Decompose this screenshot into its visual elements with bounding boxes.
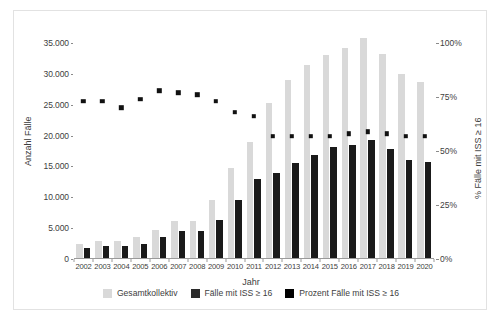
bar-group: [320, 43, 339, 259]
bar-gesamtkollektiv[interactable]: [76, 244, 83, 259]
y-axis-right-tick-label: 0%: [440, 254, 452, 264]
x-axis-tick-label: 2014: [303, 262, 319, 271]
scatter-point-prozent[interactable]: [403, 134, 407, 138]
y-axis-right-tick-label: 50%: [440, 146, 457, 156]
scatter-point-prozent[interactable]: [138, 97, 142, 101]
x-axis-tick-mark: [168, 259, 169, 262]
scatter-point-prozent[interactable]: [100, 99, 104, 103]
bar-faelle-iss[interactable]: [349, 145, 356, 259]
bar-faelle-iss[interactable]: [141, 244, 148, 259]
bar-faelle-iss[interactable]: [406, 160, 413, 259]
bar-faelle-iss[interactable]: [387, 149, 394, 259]
bar-faelle-iss[interactable]: [368, 140, 375, 259]
bar-group: [301, 43, 320, 259]
scatter-point-prozent[interactable]: [195, 93, 199, 97]
x-axis-tick-mark: [358, 259, 359, 262]
bar-group: [263, 43, 282, 259]
bar-gesamtkollektiv[interactable]: [417, 82, 424, 259]
scatter-point-prozent[interactable]: [328, 134, 332, 138]
scatter-point-prozent[interactable]: [290, 134, 294, 138]
y-axis-left-tick-label: 25.000: [44, 100, 69, 110]
bar-faelle-iss[interactable]: [254, 179, 261, 259]
x-axis-tick-label: 2006: [151, 262, 167, 271]
bar-gesamtkollektiv[interactable]: [247, 142, 254, 259]
x-axis-tick-label: 2017: [360, 262, 376, 271]
bar-faelle-iss[interactable]: [198, 231, 205, 259]
bar-faelle-iss[interactable]: [179, 231, 186, 259]
bar-faelle-iss[interactable]: [273, 173, 280, 259]
bar-faelle-iss[interactable]: [425, 162, 432, 259]
x-axis-tick-mark: [301, 259, 302, 262]
bar-faelle-iss[interactable]: [235, 200, 242, 259]
scatter-point-prozent[interactable]: [309, 134, 313, 138]
y-axis-left-tick-label: 15.000: [44, 161, 69, 171]
x-axis-tick-label: 2013: [284, 262, 300, 271]
bar-gesamtkollektiv[interactable]: [323, 55, 330, 259]
legend-label: Gesamtkollektiv: [117, 288, 178, 298]
bar-group: [169, 43, 188, 259]
legend-swatch-icon: [103, 289, 112, 298]
bar-gesamtkollektiv[interactable]: [304, 65, 311, 259]
bar-gesamtkollektiv[interactable]: [152, 230, 159, 259]
bar-gesamtkollektiv[interactable]: [379, 54, 386, 259]
scatter-point-prozent[interactable]: [384, 132, 388, 136]
x-axis-title: Jahr: [14, 277, 488, 287]
scatter-point-prozent[interactable]: [157, 88, 161, 92]
scatter-point-prozent[interactable]: [422, 134, 426, 138]
bar-gesamtkollektiv[interactable]: [266, 103, 273, 259]
bar-gesamtkollektiv[interactable]: [209, 200, 216, 259]
scatter-point-prozent[interactable]: [81, 99, 85, 103]
x-axis-tick-label: 2019: [398, 262, 414, 271]
bar-gesamtkollektiv[interactable]: [285, 80, 292, 259]
bar-group: [226, 43, 245, 259]
bar-faelle-iss[interactable]: [311, 155, 318, 259]
bar-gesamtkollektiv[interactable]: [114, 241, 121, 259]
bar-gesamtkollektiv[interactable]: [190, 221, 197, 259]
bar-gesamtkollektiv[interactable]: [360, 38, 367, 259]
bar-faelle-iss[interactable]: [330, 147, 337, 259]
bar-gesamtkollektiv[interactable]: [133, 237, 140, 259]
scatter-point-prozent[interactable]: [347, 132, 351, 136]
x-axis-tick-label: 2018: [379, 262, 395, 271]
bar-group: [377, 43, 396, 259]
legend-item[interactable]: Fälle mit ISS ≥ 16: [191, 288, 273, 298]
scatter-point-prozent[interactable]: [271, 134, 275, 138]
bar-faelle-iss[interactable]: [160, 237, 167, 259]
x-axis-tick-label: 2012: [265, 262, 281, 271]
scatter-point-prozent[interactable]: [176, 90, 180, 94]
bar-gesamtkollektiv[interactable]: [95, 241, 102, 259]
x-axis-tick-label: 2010: [227, 262, 243, 271]
x-axis-tick-mark: [111, 259, 112, 262]
x-axis-tick-mark: [149, 259, 150, 262]
x-axis-tick-label: 2003: [94, 262, 110, 271]
scatter-point-prozent[interactable]: [214, 99, 218, 103]
x-axis-tick-mark: [339, 259, 340, 262]
x-axis-tick-mark: [187, 259, 188, 262]
bar-gesamtkollektiv[interactable]: [171, 221, 178, 259]
bar-gesamtkollektiv[interactable]: [228, 168, 235, 259]
x-axis-tick-mark: [396, 259, 397, 262]
bar-gesamtkollektiv[interactable]: [398, 74, 405, 259]
y-axis-right-tick-label: 100%: [440, 38, 462, 48]
bar-group: [112, 43, 131, 259]
x-axis-tick-mark: [377, 259, 378, 262]
scatter-point-prozent[interactable]: [233, 110, 237, 114]
bar-group: [396, 43, 415, 259]
x-axis-tick-mark: [434, 259, 435, 262]
bar-group: [93, 43, 112, 259]
x-axis-tick-label: 2008: [189, 262, 205, 271]
chart-legend: GesamtkollektivFälle mit ISS ≥ 16Prozent…: [14, 288, 488, 298]
x-axis-tick-label: 2007: [170, 262, 186, 271]
y-axis-left-tick-label: 30.000: [44, 69, 69, 79]
bar-faelle-iss[interactable]: [292, 163, 299, 259]
y-axis-left-tick-label: 5.000: [48, 223, 69, 233]
scatter-point-prozent[interactable]: [365, 129, 369, 133]
y-axis-left-tick-label: 0: [64, 254, 69, 264]
bar-group: [339, 43, 358, 259]
legend-item[interactable]: Gesamtkollektiv: [103, 288, 178, 298]
scatter-point-prozent[interactable]: [119, 106, 123, 110]
bar-gesamtkollektiv[interactable]: [342, 48, 349, 259]
scatter-point-prozent[interactable]: [252, 114, 256, 118]
bar-faelle-iss[interactable]: [216, 220, 223, 259]
legend-item[interactable]: Prozent Fälle mit ISS ≥ 16: [285, 288, 399, 298]
